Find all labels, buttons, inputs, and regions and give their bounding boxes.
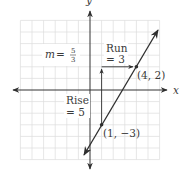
svg-text:Rise: Rise [66,94,89,106]
slope-diagram: x y (4, 2) (1, −3) m = 5 3 Run = 3 Rise … [0,0,191,175]
svg-text:5: 5 [71,47,75,55]
point-label-4-2: (4, 2) [137,69,165,81]
svg-text:= 5: = 5 [66,106,85,118]
svg-text:3: 3 [71,56,75,64]
rise-label: Rise = 5 [64,94,90,118]
slope-label: m = 5 3 [42,44,80,66]
svg-text:m: m [45,48,55,60]
y-axis-label: y [85,0,93,6]
svg-text:=: = [56,48,65,60]
run-label: Run = 3 [104,42,128,65]
svg-text:= 3: = 3 [106,53,125,65]
point-label-1-neg3: (1, −3) [103,127,140,139]
x-axis-label: x [173,84,179,96]
